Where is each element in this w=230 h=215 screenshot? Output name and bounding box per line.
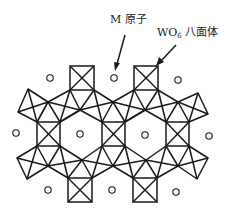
m-atom-label: M 原子 (110, 14, 147, 26)
m-atom (47, 75, 53, 81)
wo6-label: WO6 八面体 (157, 27, 218, 42)
m-atom (142, 132, 148, 138)
m-atom-label-text: M 原子 (110, 13, 147, 26)
octahedron-bottom-1 (68, 178, 92, 202)
m-atom (206, 133, 212, 139)
arrow-wo6 (161, 45, 176, 61)
m-atom (77, 131, 83, 137)
octahedron-mid-1 (37, 122, 60, 146)
octahedron-bottom-2 (133, 178, 157, 202)
octahedron-mid-2 (102, 122, 125, 146)
m-atom (175, 77, 181, 83)
m-atom (13, 130, 19, 136)
m-atom (109, 187, 115, 193)
arrow-m-atom (117, 35, 125, 64)
octahedron-top-1 (70, 66, 94, 90)
wo6-suffix: 八面体 (182, 26, 219, 39)
octahedron-mid-3 (166, 122, 189, 146)
m-atom (111, 75, 117, 81)
octahedron-top-2 (134, 66, 158, 90)
crystal-structure-diagram: M 原子 WO6 八面体 (0, 0, 230, 215)
wo6-formula: WO (157, 26, 177, 39)
lower-tilted-band (17, 146, 208, 179)
m-atom (45, 187, 51, 193)
upper-tilted-band (18, 89, 208, 122)
m-atom (173, 189, 179, 195)
